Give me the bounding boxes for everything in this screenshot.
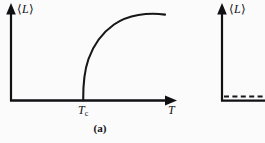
critical-temperature-symbol: T [78, 103, 85, 117]
y-axis-label-b-symbol: L [234, 2, 241, 16]
y-axis-label-b-close: ⟩ [241, 2, 246, 16]
y-axis-arrowhead-b [217, 3, 227, 15]
critical-temperature-label: Tc [78, 104, 88, 116]
y-axis-arrowhead-a [6, 3, 16, 15]
plot-panel-a: ⟨L⟩ T Tc (a) [0, 0, 200, 143]
panel-caption-a: (a) [0, 122, 200, 134]
plot-b-graphics [200, 0, 265, 143]
y-axis-label-a: ⟨L⟩ [17, 3, 34, 15]
x-axis-label-a: T [168, 104, 175, 116]
figure-container: ⟨L⟩ T Tc (a) ⟨L⟩ [0, 0, 265, 143]
y-axis-label-a-close: ⟩ [29, 2, 34, 16]
plot-panel-b: ⟨L⟩ [200, 0, 265, 143]
y-axis-label-a-symbol: L [22, 2, 29, 16]
critical-temperature-subscript: c [85, 109, 89, 118]
y-axis-label-b: ⟨L⟩ [229, 3, 246, 15]
order-parameter-curve-a [83, 14, 165, 101]
